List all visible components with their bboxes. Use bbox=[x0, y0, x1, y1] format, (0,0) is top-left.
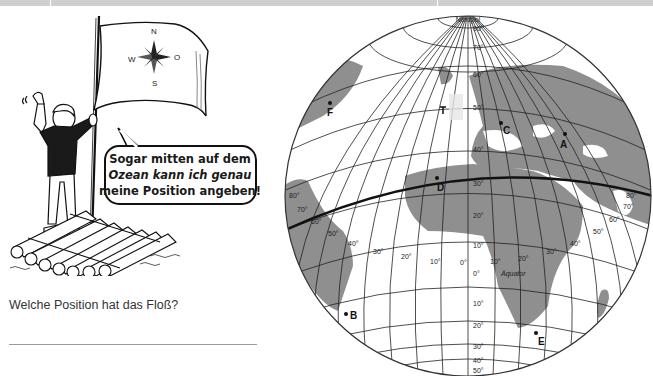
lat-label-10s: 10° bbox=[473, 300, 484, 307]
compass-north: N bbox=[151, 27, 157, 36]
lon-label-w60: 60° bbox=[311, 218, 322, 225]
lat-label-20: 20° bbox=[473, 212, 484, 219]
speech-line-1: Sogar mitten auf dem bbox=[109, 152, 251, 166]
point-e-label: E bbox=[538, 336, 545, 347]
lon-label-0: 0° bbox=[460, 259, 467, 266]
lat-label-20s: 20° bbox=[473, 322, 484, 329]
lat-label-10n: 10° bbox=[473, 242, 484, 249]
lat-label-0: 0° bbox=[473, 270, 480, 277]
lat-label-40s: 40° bbox=[473, 357, 484, 364]
lon-label-e70: 70° bbox=[623, 203, 634, 210]
lon-label-w40: 40° bbox=[348, 240, 359, 247]
point-f-label: F bbox=[327, 107, 333, 118]
lon-label-w50: 50° bbox=[328, 230, 339, 237]
point-d-label: D bbox=[437, 182, 444, 193]
compass-west: W bbox=[128, 55, 136, 64]
lat-label-40: 40° bbox=[473, 146, 484, 153]
point-a-label: A bbox=[560, 139, 567, 150]
lat-label-70: 70° bbox=[473, 44, 484, 51]
lat-label-30: 30° bbox=[473, 180, 484, 187]
speech-line-3: meine Position angeben! bbox=[99, 184, 261, 198]
globe-map: Nordpol 90° 70° 60° 50° 40° 30° 20° 10° … bbox=[283, 6, 653, 376]
flag bbox=[94, 22, 208, 116]
lon-label-e40: 40° bbox=[570, 240, 581, 247]
lon-label-e60: 60° bbox=[609, 216, 620, 223]
compass-south: S bbox=[152, 79, 157, 88]
question-text: Welche Position hat das Floß? bbox=[9, 298, 178, 312]
point-c-label: C bbox=[503, 125, 510, 136]
compass-east: O bbox=[174, 53, 180, 62]
lat-label-30s: 30° bbox=[473, 343, 484, 350]
point-b-label: B bbox=[350, 310, 357, 321]
north-pole-label: Nordpol bbox=[456, 16, 481, 24]
lat-label-90: 90° bbox=[473, 25, 484, 32]
lon-label-w70: 70° bbox=[297, 206, 308, 213]
lat-label-60: 60° bbox=[473, 71, 484, 78]
lon-label-e50: 50° bbox=[593, 228, 604, 235]
lon-label-e80: 80° bbox=[626, 192, 637, 199]
equator-label: Äquator bbox=[500, 270, 526, 278]
answer-line[interactable] bbox=[9, 344, 257, 345]
lat-label-50: 50° bbox=[473, 104, 484, 111]
lon-label-w30: 30° bbox=[373, 248, 384, 255]
lon-label-e10: 10° bbox=[490, 258, 501, 265]
lon-label-w80: 80° bbox=[289, 192, 300, 199]
speech-line-2: Ozean kann ich genau bbox=[108, 168, 251, 182]
speech-bubble: Sogar mitten auf dem Ozean kann ich gena… bbox=[99, 128, 261, 204]
lon-label-w10: 10° bbox=[430, 258, 441, 265]
lat-label-50s: 50° bbox=[473, 367, 484, 374]
lon-label-e30: 30° bbox=[546, 248, 557, 255]
lon-label-e20: 20° bbox=[518, 255, 529, 262]
raft bbox=[11, 211, 176, 276]
raft-cartoon: N O S W bbox=[0, 6, 270, 276]
lon-label-w20: 20° bbox=[401, 253, 412, 260]
